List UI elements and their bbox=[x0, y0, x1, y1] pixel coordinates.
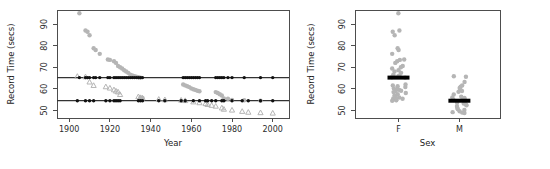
right-x-tick-label: F bbox=[396, 125, 401, 134]
left-point-male bbox=[107, 85, 112, 90]
left-point-median-marker bbox=[222, 76, 225, 79]
left-point-median-marker bbox=[78, 76, 81, 79]
left-y-axis-title: Record Time (secs) bbox=[6, 24, 16, 105]
right-point-f bbox=[403, 85, 407, 89]
right-point-f bbox=[394, 98, 398, 102]
left-point-median-marker bbox=[240, 99, 243, 102]
right-point-f bbox=[399, 89, 403, 93]
right-point-f bbox=[392, 33, 396, 37]
left-point-median-marker bbox=[92, 99, 95, 102]
left-point-median-marker bbox=[98, 76, 101, 79]
right-point-m bbox=[450, 110, 454, 114]
left-point-median-marker bbox=[259, 99, 262, 102]
left-point-median-marker bbox=[141, 99, 144, 102]
right-x-tick-label: M bbox=[456, 125, 463, 134]
left-point-median-marker bbox=[157, 99, 160, 102]
left-point-median-marker bbox=[222, 99, 225, 102]
left-point-median-marker bbox=[198, 99, 201, 102]
left-x-tick-label: 1980 bbox=[222, 125, 242, 134]
right-point-f bbox=[397, 28, 401, 32]
left-point-median-marker bbox=[271, 76, 274, 79]
right-point-m bbox=[464, 103, 468, 107]
left-point-median-marker bbox=[88, 76, 91, 79]
left-point-median-marker bbox=[108, 99, 111, 102]
left-point-median-marker bbox=[243, 76, 246, 79]
left-point-median-marker bbox=[259, 76, 262, 79]
left-point-median-marker bbox=[94, 76, 97, 79]
right-y-tick-label: 70 bbox=[338, 62, 347, 72]
left-point-median-marker bbox=[118, 99, 121, 102]
right-point-m bbox=[462, 111, 466, 115]
left-point-median-marker bbox=[163, 99, 166, 102]
left-x-tick-label: 1920 bbox=[100, 125, 120, 134]
left-point-male bbox=[213, 104, 218, 109]
right-point-f bbox=[400, 97, 404, 101]
right-point-m bbox=[464, 75, 468, 79]
left-point-median-marker bbox=[214, 99, 217, 102]
left-point-median-marker bbox=[76, 99, 79, 102]
left-point-median-marker bbox=[88, 99, 91, 102]
left-point-median-marker bbox=[84, 99, 87, 102]
left-x-axis-title: Year bbox=[163, 138, 183, 148]
figure-canvas: 5060708090190019201940196019802000YearRe… bbox=[0, 0, 550, 169]
left-y-tick-label: 80 bbox=[40, 41, 49, 51]
right-point-f bbox=[396, 11, 400, 15]
left-point-median-marker bbox=[271, 99, 274, 102]
left-y-tick-label: 70 bbox=[40, 62, 49, 72]
left-point-female bbox=[108, 58, 112, 62]
left-point-male bbox=[246, 110, 251, 115]
left-point-median-marker bbox=[226, 76, 229, 79]
left-point-male bbox=[103, 84, 108, 89]
left-point-median-marker bbox=[206, 99, 209, 102]
left-panel-plot: 5060708090190019201940196019802000YearRe… bbox=[0, 0, 300, 169]
left-plot-frame bbox=[58, 11, 290, 119]
panel-record-time-vs-year: 5060708090190019201940196019802000YearRe… bbox=[0, 0, 300, 169]
left-point-median-marker bbox=[230, 76, 233, 79]
left-point-male bbox=[240, 109, 245, 114]
right-point-f bbox=[393, 61, 397, 65]
right-x-axis-title: Sex bbox=[420, 138, 436, 148]
right-point-m bbox=[452, 74, 456, 78]
left-point-male bbox=[229, 107, 234, 112]
left-x-tick-label: 1900 bbox=[59, 125, 79, 134]
left-point-median-marker bbox=[210, 99, 213, 102]
left-point-female bbox=[93, 48, 97, 52]
left-point-median-marker bbox=[192, 99, 195, 102]
right-y-tick-label: 90 bbox=[338, 19, 347, 29]
right-point-f bbox=[390, 99, 394, 103]
left-point-female bbox=[87, 33, 91, 37]
right-point-f bbox=[404, 91, 408, 95]
left-point-female bbox=[98, 52, 102, 56]
left-y-tick-label: 90 bbox=[40, 19, 49, 29]
right-point-m bbox=[456, 90, 460, 94]
right-y-axis-title: Record Time (secs) bbox=[306, 24, 316, 105]
left-x-tick-label: 1940 bbox=[140, 125, 160, 134]
right-plot-frame bbox=[356, 11, 501, 119]
right-y-tick-label: 60 bbox=[338, 84, 347, 94]
right-y-tick-label: 80 bbox=[338, 41, 347, 51]
left-y-tick-label: 50 bbox=[40, 105, 49, 115]
left-point-median-marker bbox=[108, 76, 111, 79]
right-point-f bbox=[396, 48, 400, 52]
right-point-f bbox=[390, 52, 394, 56]
left-point-male bbox=[87, 79, 92, 84]
left-point-median-marker bbox=[141, 76, 144, 79]
left-y-tick-label: 60 bbox=[40, 84, 49, 94]
right-panel-plot: 5060708090FMSexRecord Time (secs) bbox=[300, 0, 550, 169]
left-point-male bbox=[270, 110, 275, 115]
left-point-median-marker bbox=[184, 99, 187, 102]
left-x-tick-label: 2000 bbox=[263, 125, 283, 134]
left-point-female bbox=[77, 11, 81, 15]
left-point-median-marker bbox=[198, 76, 201, 79]
left-point-female bbox=[197, 89, 201, 93]
panel-record-time-by-sex: 5060708090FMSexRecord Time (secs) bbox=[300, 0, 550, 169]
left-point-median-marker bbox=[179, 99, 182, 102]
right-y-tick-label: 50 bbox=[338, 105, 347, 115]
left-point-median-marker bbox=[104, 99, 107, 102]
right-point-f bbox=[402, 57, 406, 61]
left-point-median-marker bbox=[230, 99, 233, 102]
left-point-median-marker bbox=[247, 99, 250, 102]
left-point-female bbox=[226, 97, 230, 101]
left-x-tick-label: 1960 bbox=[181, 125, 201, 134]
left-point-male bbox=[258, 110, 263, 115]
